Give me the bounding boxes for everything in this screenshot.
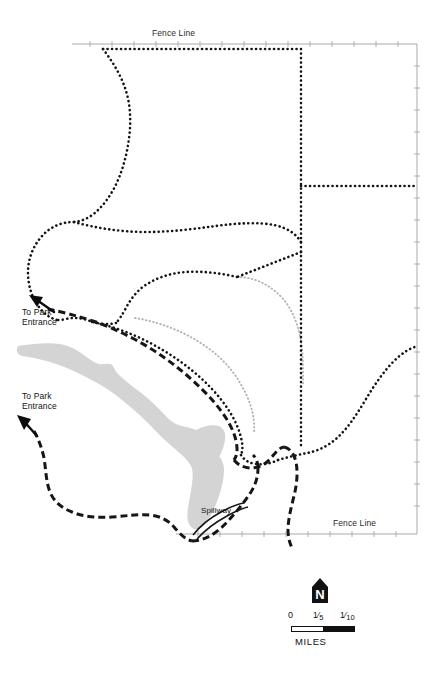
label-to-park-entrance-lower: To Park Entrance	[22, 391, 57, 412]
label-to-park-entrance-upper: To Park Entrance	[22, 307, 57, 328]
map-canvas: Fence Line Fence Line To Park Entrance T…	[0, 0, 439, 684]
scale-tick-labels: 0 1⁄5 1⁄10	[283, 610, 393, 625]
scale-tick-1: 1⁄5	[313, 610, 323, 620]
park-entrance-arrow-lower	[17, 415, 37, 436]
scale-tick-0: 0	[288, 610, 293, 620]
primary-trail-dotted	[28, 49, 418, 464]
label-fence-line-top: Fence Line	[152, 28, 195, 38]
scale-bar	[291, 626, 355, 632]
water-body-reservoir	[17, 343, 226, 529]
scale-bar-filled-half	[323, 627, 354, 631]
scale-units-label: MILES	[295, 636, 327, 647]
north-arrow-icon: N	[309, 578, 331, 606]
label-spillway: Spillway	[201, 506, 231, 516]
label-fence-line-bottom: Fence Line	[333, 518, 376, 528]
fence-line-boundary	[72, 41, 420, 537]
scale-tick-2: 1⁄10	[340, 610, 355, 620]
north-letter: N	[315, 587, 324, 602]
map-legend: N 0 1⁄5 1⁄10 MILES	[283, 578, 393, 658]
